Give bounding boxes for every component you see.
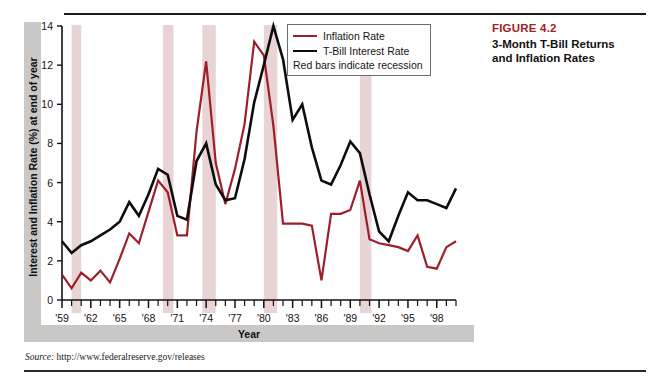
legend-item-tbill: T-Bill Interest Rate <box>293 43 423 58</box>
source-url: http://www.federalreserve.gov/releases <box>57 352 205 362</box>
x-tick-label: '77 <box>228 312 242 324</box>
x-tick-label: '71 <box>170 312 184 324</box>
x-tick-label: '98 <box>430 312 444 324</box>
page-title: 3-Month T-Bill Returns and Inflation Rat… <box>492 37 632 65</box>
x-tick-label: '62 <box>84 312 98 324</box>
y-tick-label: 14 <box>41 20 53 32</box>
source-label: Source: <box>25 352 54 362</box>
x-axis-ticks: '59'62'65'68'71'74'77'80'83'86'89'92'95'… <box>55 300 456 324</box>
x-tick-label: '92 <box>372 312 386 324</box>
y-tick-label: 8 <box>47 137 53 149</box>
legend-note-recession: Red bars indicate recession <box>293 59 423 71</box>
source-note: Source: http://www.federalreserve.gov/re… <box>25 352 205 362</box>
bottom-divider <box>24 370 646 372</box>
y-tick-label: 10 <box>41 98 53 110</box>
y-tick-label: 12 <box>41 59 53 71</box>
x-tick-label: '65 <box>113 312 127 324</box>
legend-line-icon-tbill <box>293 50 317 52</box>
x-tick-label: '74 <box>199 312 213 324</box>
x-tick-label: '95 <box>401 312 415 324</box>
legend-label-tbill: T-Bill Interest Rate <box>323 45 409 57</box>
legend-label-inflation: Inflation Rate <box>323 30 385 42</box>
x-tick-label: '59 <box>55 312 69 324</box>
x-tick-label: '89 <box>343 312 357 324</box>
x-tick-label: '68 <box>142 312 156 324</box>
chart-legend: Inflation Rate T-Bill Interest Rate Red … <box>287 24 431 76</box>
x-tick-label: '83 <box>286 312 300 324</box>
x-tick-label: '86 <box>315 312 329 324</box>
legend-line-icon-inflation <box>293 35 317 37</box>
y-tick-label: 2 <box>47 255 53 267</box>
figure-number: FIGURE 4.2 <box>492 22 652 34</box>
recession-band <box>72 25 82 313</box>
x-tick-label: '80 <box>257 312 271 324</box>
legend-item-inflation: Inflation Rate <box>293 28 423 43</box>
y-tick-label: 4 <box>47 216 53 228</box>
y-tick-label: 6 <box>47 177 53 189</box>
y-axis-ticks: 02468101214 <box>41 20 62 306</box>
y-tick-label: 0 <box>47 294 53 306</box>
figure-caption: FIGURE 4.2 3-Month T-Bill Returns and In… <box>492 22 652 65</box>
recession-band <box>163 25 174 313</box>
